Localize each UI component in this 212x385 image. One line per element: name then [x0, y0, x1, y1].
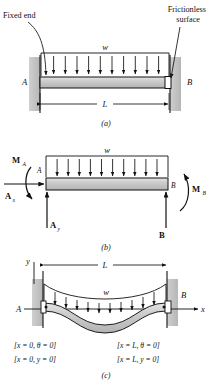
beam-figure: w A B L Fixed end Frictionless surface (…	[0, 0, 212, 385]
wall-left-a	[29, 57, 40, 111]
node-label-a-left: A	[21, 77, 28, 87]
dim-label-a: L	[102, 99, 108, 109]
node-label-b-right: B	[171, 181, 176, 190]
beam-b	[46, 178, 168, 190]
bc-left-2: [x = 0, y = 0]	[14, 355, 56, 364]
load-label-c: w	[103, 287, 109, 297]
node-label-b-left: A	[36, 166, 42, 175]
reaction-ay-subscript: y	[57, 226, 61, 232]
moment-b-subscript: B	[203, 190, 207, 196]
load-arrows-a	[54, 56, 159, 74]
dim-label-c: L	[102, 260, 108, 270]
panel-tag-c: (c)	[101, 371, 110, 380]
reaction-ay-label: A	[50, 220, 57, 230]
bc-right-2: [x = L, y = 0]	[117, 355, 159, 364]
moment-b-arc	[180, 174, 189, 211]
node-label-c-left: A	[15, 304, 22, 314]
bc-right-1: [x = L, θ = 0]	[117, 341, 160, 350]
reaction-ax-subscript: x	[12, 197, 16, 203]
deflected-beam-c	[44, 303, 166, 333]
load-arrows-b	[57, 159, 157, 176]
support-right-c	[165, 301, 171, 313]
panel-tag-a: (a)	[101, 119, 111, 128]
node-label-c-right: B	[181, 290, 187, 300]
panel-a: w A B L Fixed end Frictionless surface (…	[3, 5, 206, 128]
reaction-ax-label: A	[5, 191, 12, 201]
load-label-b: w	[104, 145, 110, 155]
frictionless-label-line1: Frictionless	[168, 5, 206, 14]
node-dot-left-c	[45, 306, 48, 309]
axis-x-label: x	[200, 304, 205, 314]
moment-a-label: M	[12, 155, 20, 165]
panel-b: w A B A x A y B M A M B (b)	[4, 145, 207, 252]
moment-a-subscript: A	[22, 161, 27, 167]
node-dot-right-c	[163, 306, 166, 309]
axis-y-label: y	[25, 256, 30, 266]
panel-c: y L w x A B	[14, 256, 205, 380]
moment-a-arc	[26, 167, 32, 199]
bc-left-1: [x = 0, θ = 0]	[14, 341, 56, 350]
load-label-a: w	[102, 42, 108, 52]
moment-b-label: M	[192, 184, 200, 194]
frictionless-label-line2: surface	[176, 15, 200, 24]
wall-right-a	[170, 57, 181, 111]
panel-tag-b: (b)	[101, 243, 111, 252]
slider-block-a	[165, 77, 171, 89]
beam-a	[40, 77, 168, 88]
fixed-end-label: Fixed end	[3, 11, 36, 20]
node-label-a-right: B	[187, 77, 193, 87]
reaction-b-label: B	[159, 230, 165, 240]
